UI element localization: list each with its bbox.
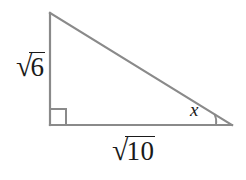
angle-arc-icon xyxy=(215,114,217,125)
radical-sign-icon: √ xyxy=(16,53,32,79)
radicand-value: 10 xyxy=(125,136,155,165)
label-vertical-leg: √ 6 xyxy=(16,52,45,81)
radical-expression: √ 6 xyxy=(16,52,45,81)
geometry-figure: √ 6 √ 10 x xyxy=(0,0,246,180)
radical-expression: √ 10 xyxy=(112,136,155,165)
label-angle-x: x xyxy=(190,100,198,119)
triangle-side-hypotenuse xyxy=(50,13,232,125)
right-angle-mark-icon xyxy=(50,109,66,125)
radical-sign-icon: √ xyxy=(112,137,128,163)
label-horizontal-leg: √ 10 xyxy=(112,136,155,165)
